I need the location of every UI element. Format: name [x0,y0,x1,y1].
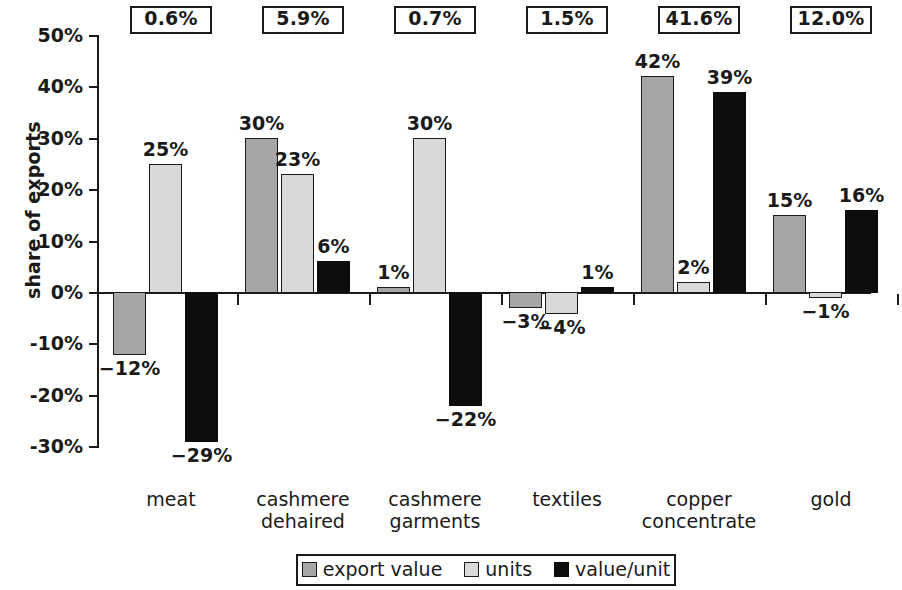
category-share-box: 5.9% [262,6,344,34]
y-axis-tick-label: -30% [0,437,83,456]
legend-item-value_unit: value/unit [554,560,670,579]
bar-units [545,292,578,314]
y-axis-tick [89,35,98,37]
legend-label: value/unit [575,560,670,579]
y-axis-tick-label: -20% [0,386,83,405]
y-axis-tick-label: 40% [0,77,83,96]
category-label: cashmere dehaired [237,488,369,533]
bar-value_unit [845,210,878,293]
bar-units [809,292,842,298]
legend-item-export_value: export value [302,560,442,579]
bar-value_unit [317,261,350,293]
bar-value-label: −1% [786,302,866,321]
category-separator-tick [501,294,503,305]
bar-export_value [377,287,410,293]
y-axis-tick [89,86,98,88]
bar-value-label: 30% [222,114,302,133]
bar-value-label: −29% [162,446,242,465]
bar-value-label: 42% [618,52,698,71]
y-axis-tick-label: 50% [0,26,83,45]
category-label: copper concentrate [633,488,765,533]
category-label: meat [105,488,237,510]
bar-value-label: 6% [294,237,374,256]
y-axis-tick-label: -10% [0,334,83,353]
bar-units [281,174,314,293]
legend-swatch-units [464,562,479,577]
bar-export_value [773,215,806,293]
y-axis-tick [89,395,98,397]
y-axis-title: share of exports [22,121,44,299]
bar-units [677,282,710,293]
bar-export_value [509,292,542,308]
legend-label: units [485,560,532,579]
chart-legend: export valueunitsvalue/unit [296,554,676,586]
bar-value_unit [581,287,614,293]
category-share-box: 0.6% [130,6,212,34]
y-axis-tick [89,138,98,140]
bar-value-label: 16% [822,186,902,205]
bar-value-label: 23% [258,150,338,169]
bar-units [413,138,446,293]
category-share-box: 12.0% [790,6,872,34]
category-separator-tick [897,294,899,305]
y-axis-tick [89,241,98,243]
bar-value-label: −22% [426,410,506,429]
legend-swatch-export_value [302,562,317,577]
category-separator-tick [765,294,767,305]
bar-value-label: −4% [522,318,602,337]
legend-swatch-value_unit [554,562,569,577]
category-separator-tick [369,294,371,305]
category-label: gold [765,488,897,510]
bar-value-label: 39% [690,68,770,87]
bar-value_unit [713,92,746,293]
bar-value_unit [185,292,218,442]
bar-value-label: 15% [750,191,830,210]
bar-value_unit [449,292,482,406]
bar-value-label: 1% [558,263,638,282]
legend-item-units: units [464,560,532,579]
bar-export_value [113,292,146,355]
category-label: textiles [501,488,633,510]
category-separator-tick [633,294,635,305]
y-axis-tick [89,446,98,448]
bar-value-label: 25% [126,140,206,159]
category-share-box: 41.6% [658,6,740,34]
category-share-box: 1.5% [526,6,608,34]
category-separator-tick [237,294,239,305]
y-axis-tick [89,189,98,191]
legend-label: export value [323,560,442,579]
bar-value-label: −12% [90,359,170,378]
bar-value-label: 30% [390,114,470,133]
category-label: cashmere garments [369,488,501,533]
y-axis-tick [89,343,98,345]
category-share-box: 0.7% [394,6,476,34]
bar-units [149,164,182,294]
